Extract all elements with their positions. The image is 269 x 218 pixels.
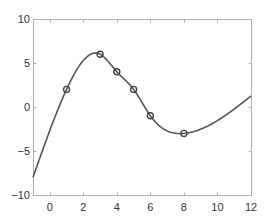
y-tick-label: 0 bbox=[24, 101, 30, 113]
x-tick-label: 12 bbox=[245, 201, 257, 213]
x-tick-label: 4 bbox=[114, 201, 120, 213]
y-tick-label: −5 bbox=[17, 145, 30, 157]
y-axis-tick-labels: −10−50510 bbox=[11, 13, 30, 201]
y-tick-label: −10 bbox=[11, 189, 30, 201]
y-tick-label: 10 bbox=[18, 13, 30, 25]
x-tick-label: 10 bbox=[211, 201, 223, 213]
chart: 024681012 −10−50510 bbox=[0, 0, 269, 218]
y-tick-label: 5 bbox=[24, 57, 30, 69]
x-tick-label: 8 bbox=[181, 201, 187, 213]
x-tick-label: 2 bbox=[80, 201, 86, 213]
x-tick-label: 0 bbox=[47, 201, 53, 213]
x-axis-tick-labels: 024681012 bbox=[47, 201, 257, 213]
x-tick-label: 6 bbox=[147, 201, 153, 213]
plot-background bbox=[34, 20, 252, 196]
